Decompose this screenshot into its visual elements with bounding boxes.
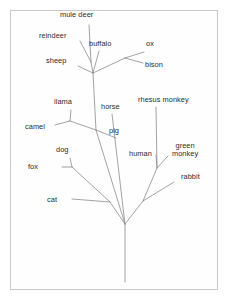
branch-green-monkey-to-primate-node — [157, 156, 168, 168]
branch-camel-to-camelid-node — [55, 121, 70, 125]
leaf-label-pig: pig — [109, 127, 119, 135]
leaf-label-human: human — [129, 150, 152, 158]
branch-ox-to-bovid-node — [125, 52, 144, 58]
leaf-label-camel: camel — [25, 123, 45, 131]
leaf-label-llama: llama — [54, 98, 72, 106]
leaf-label-ox: ox — [146, 40, 154, 48]
branch-camelid-node-to-artiodactyl-node — [70, 121, 96, 130]
branch-rabbit-to-glires-node — [143, 182, 174, 201]
tree-figure: mule deerreindeerbuffalooxbisonsheepllam… — [0, 0, 230, 302]
branch-sheep-to-ruminant-node — [78, 66, 93, 73]
leaf-label-dog: dog — [56, 146, 68, 154]
branch-bovid-node-to-ruminant-node — [93, 58, 125, 73]
branch-buffalo-to-ruminant-node — [93, 51, 99, 73]
branch-dog-to-canid-node — [70, 158, 72, 167]
leaf-label-buffalo: buffalo — [89, 40, 111, 48]
branch-llama-to-camelid-node — [70, 110, 71, 121]
branch-canid-node-to-carnivore-node — [72, 167, 110, 202]
leaf-label-rhesus-monkey: rhesus monkey — [138, 96, 189, 104]
leaf-label-green-monkey: green monkey — [172, 142, 198, 159]
leaf-label-reindeer: reindeer — [39, 32, 67, 40]
leaf-label-cat: cat — [47, 196, 57, 204]
branch-bison-to-bovid-node — [125, 58, 143, 63]
branch-ruminant-node-to-artiodactyl-node — [93, 73, 96, 130]
branch-glires-node-to-root-node — [125, 201, 143, 224]
leaf-label-sheep: sheep — [46, 57, 66, 65]
branch-primate-node-to-glires-node — [143, 168, 157, 201]
leaf-label-fox: fox — [28, 163, 38, 171]
branch-deer-node-to-ruminant-node — [91, 62, 93, 73]
leaf-label-bison: bison — [145, 61, 163, 69]
leaf-label-rabbit: rabbit — [181, 173, 200, 181]
branch-artiodactyl-node-to-root-node — [96, 130, 125, 224]
leaf-label-mule-deer: mule deer — [60, 11, 93, 19]
branch-cat-to-carnivore-node — [72, 199, 110, 202]
leaf-label-horse: horse — [101, 103, 120, 111]
